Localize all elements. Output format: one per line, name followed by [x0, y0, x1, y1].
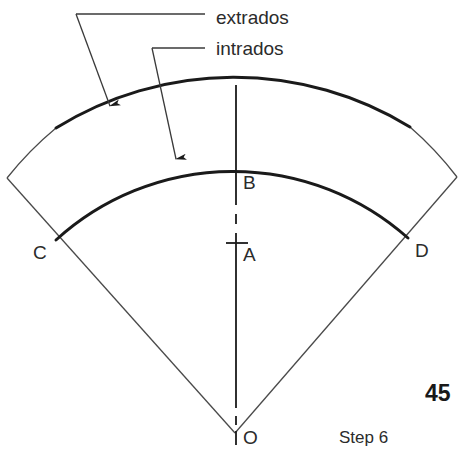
outer-arc-thin-right-end	[410, 127, 457, 177]
radial-line-left	[7, 178, 235, 433]
callout-label-intrados: intrados	[216, 39, 284, 58]
diagram-canvas: extrados intrados A B C D O 45 Step 6	[0, 0, 465, 461]
extrados-leader	[76, 14, 205, 106]
arch-diagram-svg	[0, 0, 465, 461]
outer-arc-thin-left-end	[7, 128, 56, 178]
page-number: 45	[425, 382, 451, 405]
intrados-leader	[152, 48, 205, 159]
intrados-arc	[56, 171, 408, 240]
point-label-a: A	[243, 245, 256, 264]
point-label-c: C	[33, 243, 47, 262]
radial-line-right	[235, 177, 457, 433]
point-label-d: D	[415, 241, 429, 260]
callout-label-extrados: extrados	[216, 8, 289, 27]
point-label-o: O	[243, 428, 258, 447]
step-label: Step 6	[339, 429, 388, 446]
point-label-b: B	[243, 173, 256, 192]
